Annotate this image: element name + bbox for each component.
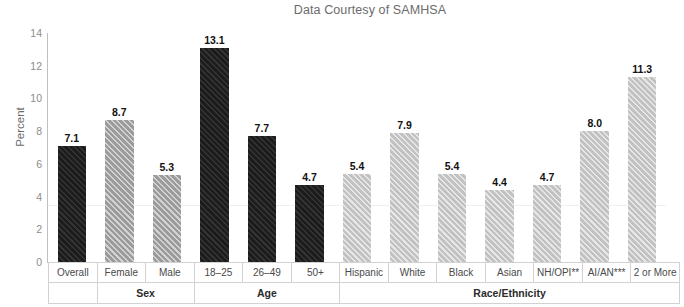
group-cell-sex: Sex: [97, 283, 194, 304]
bar-female: [105, 120, 134, 262]
y-tick-4: 4: [18, 192, 42, 203]
bar-value-label: 7.1: [52, 133, 92, 144]
bar-value-label: 7.9: [385, 120, 425, 131]
group-cell-race-ethnicity: Race/Ethnicity: [340, 283, 680, 304]
bar-value-label: 4.4: [480, 177, 520, 188]
bar-value-label: 5.4: [337, 161, 377, 172]
bar-value-label: 7.7: [242, 123, 282, 134]
category-cell: NH/OPI**: [534, 263, 583, 283]
category-cell: Male: [146, 263, 195, 283]
bar-value-label: 5.3: [147, 162, 187, 173]
category-row: OverallFemaleMale18–2526–4950+HispanicWh…: [49, 263, 680, 283]
bar-value-label: 4.7: [527, 172, 567, 183]
bar-male: [153, 175, 182, 262]
chart-title: Data Courtesy of SAMHSA: [36, 3, 684, 17]
category-cell: Hispanic: [340, 263, 389, 283]
plot-area: 7.18.75.313.17.74.75.47.95.44.44.78.011.…: [48, 33, 666, 262]
category-cell: White: [388, 263, 437, 283]
category-cell: 26–49: [243, 263, 292, 283]
bar-2-or-more: [628, 77, 657, 262]
bar-value-label: 5.4: [432, 161, 472, 172]
group-cell-age: Age: [194, 283, 340, 304]
bar-black: [438, 174, 467, 262]
y-tick-2: 2: [18, 224, 42, 235]
category-cell: Asian: [485, 263, 534, 283]
bar-asian: [485, 190, 514, 262]
bar-value-label: 11.3: [622, 64, 662, 75]
bar-nh-opi-: [533, 185, 562, 262]
y-tick-14: 14: [18, 28, 42, 39]
bar-value-label: 13.1: [194, 35, 234, 46]
category-cell: AI/AN***: [582, 263, 631, 283]
y-tick-10: 10: [18, 93, 42, 104]
group-cell-blank: [49, 283, 98, 304]
y-tick-6: 6: [18, 159, 42, 170]
category-cell: 2 or More: [631, 263, 680, 283]
bar-value-label: 8.0: [575, 118, 615, 129]
bar-18-25: [200, 48, 229, 262]
bar-ai-an-: [580, 131, 609, 262]
bar-26-49: [248, 136, 277, 262]
bar-hispanic: [343, 174, 372, 262]
bar-value-label: 4.7: [289, 172, 329, 183]
category-label-table: OverallFemaleMale18–2526–4950+HispanicWh…: [48, 262, 680, 304]
y-tick-0: 0: [18, 257, 42, 268]
y-tick-12: 12: [18, 61, 42, 72]
category-cell: Overall: [49, 263, 98, 283]
bar-value-label: 8.7: [99, 107, 139, 118]
bar-white: [390, 133, 419, 262]
category-cell: 18–25: [194, 263, 243, 283]
bar-overall: [58, 146, 87, 262]
category-cell: Female: [97, 263, 146, 283]
y-tick-8: 8: [18, 126, 42, 137]
group-row: SexAgeRace/Ethnicity: [49, 283, 680, 304]
category-cell: Black: [437, 263, 486, 283]
category-cell: 50+: [291, 263, 340, 283]
bar-50-: [295, 185, 324, 262]
